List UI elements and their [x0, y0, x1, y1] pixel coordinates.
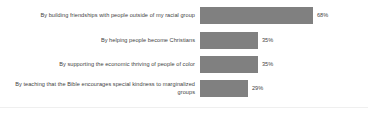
bar-value-label: 35%: [262, 37, 273, 44]
bar-row: By supporting the economic thriving of p…: [0, 56, 368, 73]
bar-track: 35%: [200, 56, 368, 73]
category-label: By building friendships with people outs…: [0, 12, 200, 19]
bar-fill: [200, 56, 258, 73]
category-label: By teaching that the Bible encourages sp…: [0, 81, 200, 95]
horizontal-bar-chart: By building friendships with people outs…: [0, 0, 368, 115]
bar-value-label: 29%: [252, 85, 263, 92]
bar-fill: [200, 80, 248, 97]
bar-track: 29%: [200, 80, 368, 97]
bar-fill: [200, 32, 258, 49]
bar-fill: [200, 7, 313, 24]
bar-value-label: 35%: [262, 61, 273, 68]
bar-row: By building friendships with people outs…: [0, 7, 368, 24]
bar-value-label: 68%: [317, 12, 328, 19]
bar-row: By helping people become Christians 35%: [0, 32, 368, 49]
category-label: By helping people become Christians: [0, 37, 200, 44]
bar-row: By teaching that the Bible encourages sp…: [0, 80, 368, 97]
bar-track: 68%: [200, 7, 368, 24]
bar-track: 35%: [200, 32, 368, 49]
category-label: By supporting the economic thriving of p…: [0, 61, 200, 68]
chart-baseline: [0, 107, 368, 108]
